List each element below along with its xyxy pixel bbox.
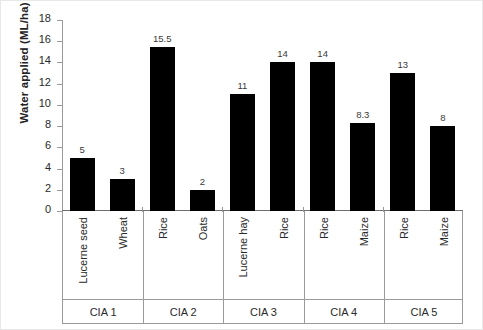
bar-value-label: 15.5 bbox=[153, 33, 172, 44]
category-label-band: Lucerne seedWheatRiceOatsLucerne hayRice… bbox=[62, 211, 463, 300]
plot-area: 5315.521114148.3138 bbox=[62, 20, 463, 211]
bar-value-label: 14 bbox=[317, 48, 328, 59]
group-divider bbox=[384, 211, 385, 300]
group-label: CIA 4 bbox=[330, 306, 357, 318]
group-divider bbox=[143, 211, 144, 300]
group-divider bbox=[223, 211, 224, 300]
bar-rect bbox=[310, 62, 335, 211]
group-divider bbox=[143, 300, 144, 324]
category-label: Maize bbox=[444, 188, 456, 217]
category-cell: Lucerne hay bbox=[223, 211, 263, 300]
bar-value-label: 14 bbox=[277, 48, 288, 59]
y-axis-tick-label: 4 bbox=[45, 161, 51, 173]
bar-value-label: 3 bbox=[119, 165, 124, 176]
category-cell: Maize bbox=[344, 211, 384, 300]
group-label: CIA 5 bbox=[410, 306, 437, 318]
y-axis-tick-label: 6 bbox=[45, 139, 51, 151]
category-label: Rice bbox=[284, 195, 296, 217]
y-axis-tick-label: 0 bbox=[45, 203, 51, 215]
category-label: Rice bbox=[404, 195, 416, 217]
bar: 2 bbox=[190, 20, 215, 211]
bar: 14 bbox=[310, 20, 335, 211]
y-axis-tick-label: 18 bbox=[39, 12, 51, 24]
category-label: Wheat bbox=[123, 185, 135, 217]
group-cell: CIA 3 bbox=[223, 300, 303, 324]
category-label: Rice bbox=[163, 195, 175, 217]
group-cell: CIA 2 bbox=[143, 300, 223, 324]
x-axis-tick-mark bbox=[142, 207, 143, 212]
bar-rect bbox=[390, 73, 415, 211]
bar-rect bbox=[150, 47, 175, 211]
bar: 14 bbox=[270, 20, 295, 211]
group-label: CIA 1 bbox=[90, 306, 117, 318]
bar: 13 bbox=[390, 20, 415, 211]
category-cell: Rice bbox=[143, 211, 183, 300]
bar-chart: Water applied (ML/ha) 181614121086420 53… bbox=[0, 0, 483, 330]
category-label: Maize bbox=[364, 188, 376, 217]
group-label: CIA 3 bbox=[250, 306, 277, 318]
group-divider bbox=[304, 211, 305, 300]
x-axis-tick-mark bbox=[383, 207, 384, 212]
category-cell: Rice bbox=[304, 211, 344, 300]
bar: 8 bbox=[430, 20, 455, 211]
category-label: Rice bbox=[324, 195, 336, 217]
group-cell: CIA 5 bbox=[384, 300, 464, 324]
bar-value-label: 8 bbox=[440, 112, 445, 123]
y-axis-tick-label: 8 bbox=[45, 118, 51, 130]
group-label-band: CIA 1CIA 2CIA 3CIA 4CIA 5 bbox=[62, 300, 463, 324]
category-cell: Rice bbox=[384, 211, 424, 300]
group-divider bbox=[384, 300, 385, 324]
group-cell: CIA 4 bbox=[304, 300, 384, 324]
category-label: Oats bbox=[203, 194, 215, 217]
category-cell: Lucerne seed bbox=[63, 211, 103, 300]
bar-value-label: 11 bbox=[238, 80, 248, 91]
y-axis-title: Water applied (ML/ha) bbox=[18, 0, 30, 138]
y-axis-tick-label: 14 bbox=[39, 54, 51, 66]
category-cell: Rice bbox=[264, 211, 304, 300]
category-label: Lucerne hay bbox=[243, 156, 255, 217]
bar: 15.5 bbox=[150, 20, 175, 211]
category-cell: Oats bbox=[183, 211, 223, 300]
category-label: Lucerne seed bbox=[83, 150, 95, 217]
y-axis-tick-label: 2 bbox=[45, 182, 51, 194]
bar: 8.3 bbox=[350, 20, 375, 211]
x-axis-tick-mark bbox=[303, 207, 304, 212]
group-cell: CIA 1 bbox=[63, 300, 143, 324]
x-axis-tick-mark bbox=[222, 207, 223, 212]
bar-value-label: 13 bbox=[398, 59, 409, 70]
y-axis-tick-label: 16 bbox=[39, 33, 51, 45]
bar: 3 bbox=[110, 20, 135, 211]
bar-rect bbox=[270, 62, 295, 211]
bar-value-label: 8.3 bbox=[356, 109, 369, 120]
bar-value-label: 2 bbox=[200, 176, 205, 187]
category-cell: Maize bbox=[424, 211, 464, 300]
group-divider bbox=[223, 300, 224, 324]
y-axis-tick-label: 10 bbox=[39, 97, 51, 109]
y-axis-tick-label: 12 bbox=[39, 76, 51, 88]
group-label: CIA 2 bbox=[170, 306, 197, 318]
category-cell: Wheat bbox=[103, 211, 143, 300]
group-divider bbox=[304, 300, 305, 324]
